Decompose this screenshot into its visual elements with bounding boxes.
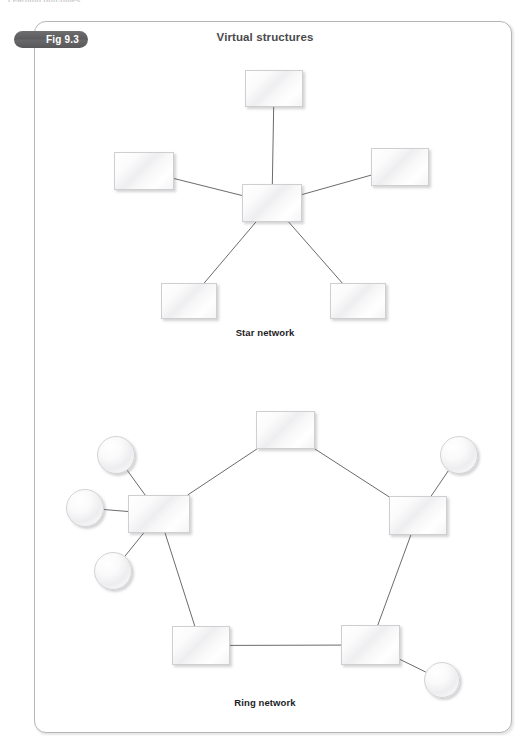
ring-box-bottom-left: [172, 626, 230, 665]
running-header: Learning outcomes: [8, 0, 81, 2]
star-network-caption: Star network: [0, 327, 530, 338]
ring-box-bottom-right: [341, 625, 400, 665]
ring-circle-right-top: [440, 436, 478, 474]
star-hub: [242, 184, 302, 222]
figure-number-badge: Fig 9.3: [14, 31, 88, 48]
ring-circle-left-bottom: [94, 552, 132, 590]
star-spoke-bottom-left: [161, 283, 217, 319]
ring-box-left: [128, 495, 190, 533]
ring-network-caption: Ring network: [0, 697, 530, 708]
ring-circle-left-middle: [66, 489, 104, 527]
ring-circle-bottom-right: [424, 662, 460, 698]
ring-box-right: [389, 496, 447, 535]
star-spoke-bottom-right: [330, 283, 386, 319]
star-spoke-left: [114, 152, 174, 190]
star-spoke-top: [245, 70, 303, 107]
ring-box-top: [256, 411, 315, 449]
figure-frame: [34, 21, 512, 733]
star-spoke-right: [371, 148, 429, 186]
ring-circle-left-top: [97, 436, 135, 474]
